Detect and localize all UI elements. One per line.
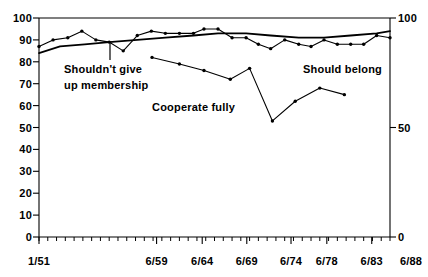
- chart-container: 100 90 80 70 60 50 40 30 20 10 0 100 50 …: [0, 0, 428, 277]
- y-axis-right-tickmarks: [390, 18, 396, 237]
- series-line-trend: [39, 31, 390, 53]
- series-markers-shouldnt-give-up-membership: [37, 27, 391, 52]
- y-axis-left-tickmarks: [33, 18, 39, 237]
- series-line-shouldnt-give-up-membership: [39, 29, 390, 51]
- x-axis-minor-tickmarks: [39, 237, 390, 241]
- series-line-cooperate-fully: [152, 57, 344, 121]
- chart-plot-svg: [0, 0, 428, 277]
